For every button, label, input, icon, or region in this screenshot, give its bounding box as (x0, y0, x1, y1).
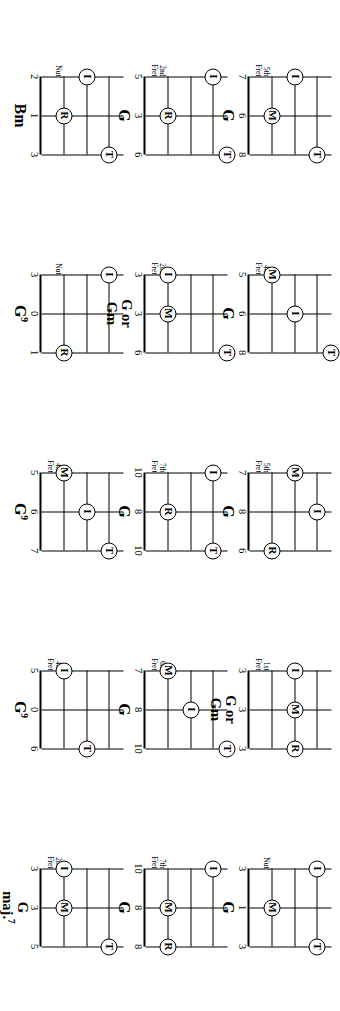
chord-slot: 1stFretIMR333G or Gm (219, 608, 323, 806)
fret-line-0 (316, 670, 317, 748)
fret-line-2 (63, 274, 64, 352)
fret-line-0 (212, 274, 213, 352)
chord-diagram[interactable]: 4thFretMIT568G (219, 242, 319, 392)
finger-marker[interactable]: T (101, 542, 118, 559)
chord-name-text: G (11, 502, 28, 514)
finger-marker[interactable]: R (287, 740, 304, 757)
finger-marker[interactable]: I (160, 266, 177, 283)
chord-diagram[interactable]: 7thFretIRT10810G (115, 440, 215, 590)
chord-diagram[interactable]: 6thFretMIT7810G (115, 638, 215, 788)
finger-marker[interactable]: I (205, 68, 222, 85)
chord-diagram[interactable]: 2ndFretIMT336G or Gm (115, 242, 215, 392)
fret-number: 1 (27, 112, 39, 117)
finger-marker[interactable]: R (56, 107, 73, 124)
finger-marker[interactable]: I (309, 860, 326, 877)
finger-marker[interactable]: T (219, 344, 236, 361)
string-line-3 (145, 946, 227, 947)
fret-number: 0 (27, 310, 39, 315)
chord-diagram[interactable]: NutIR301G9 (11, 242, 111, 392)
fret-number: 3 (27, 271, 39, 276)
string-line-1 (249, 274, 331, 275)
fret-number: 3 (235, 943, 247, 948)
chord-column: 1stFretIMR333G or Gm6thFretMIT7810G4thFr… (11, 608, 323, 806)
chord-diagram[interactable]: 7thFretIMR1088G (115, 836, 215, 986)
fret-number: 10 (131, 467, 143, 478)
chord-name-superscript: 7 (6, 919, 16, 924)
finger-marker[interactable]: T (309, 938, 326, 955)
fret-number: 5 (235, 271, 247, 276)
chord-diagram[interactable]: 5thFretIMT768G (219, 44, 319, 194)
chord-diagram[interactable]: 1stFretIMR333G or Gm (219, 638, 319, 788)
fretboard: 6thFretMIT (145, 670, 213, 748)
chord-diagram[interactable]: NutIRT213Bm (11, 44, 111, 194)
finger-marker[interactable]: M (264, 899, 281, 916)
fret-line-2 (63, 670, 64, 748)
fret-line-2 (63, 472, 64, 550)
chord-diagram[interactable]: 4thFretIT506G9 (11, 638, 111, 788)
finger-marker[interactable]: T (101, 938, 118, 955)
finger-marker[interactable]: T (309, 146, 326, 163)
fretboard: NutIRT (41, 76, 109, 154)
finger-marker[interactable]: R (264, 542, 281, 559)
chord-name-superscript: 9 (18, 317, 28, 322)
chord-diagram[interactable]: 2ndFretIMT335G maj.7 (11, 836, 111, 986)
finger-marker[interactable]: I (287, 305, 304, 322)
fret-number: 6 (235, 547, 247, 552)
finger-marker[interactable]: R (56, 344, 73, 361)
fret-position-line2: Fret (45, 640, 53, 670)
finger-marker[interactable]: T (79, 740, 96, 757)
finger-marker[interactable]: T (205, 542, 222, 559)
finger-marker[interactable]: R (160, 938, 177, 955)
finger-marker[interactable]: R (160, 107, 177, 124)
chord-diagram[interactable]: 4thFretMIT567G9 (11, 440, 111, 590)
string-line-2 (145, 511, 227, 512)
fret-number: 8 (131, 904, 143, 909)
chord-slot: 5thFretIMT768G (219, 14, 323, 212)
chord-diagram[interactable]: 2ndFretIRT536G (115, 44, 215, 194)
finger-marker[interactable]: I (56, 662, 73, 679)
fret-number: 0 (27, 706, 39, 711)
chord-diagram[interactable]: NutIMT313G (219, 836, 319, 986)
finger-marker[interactable]: I (101, 266, 118, 283)
string-line-2 (145, 907, 227, 908)
finger-marker[interactable]: I (205, 860, 222, 877)
fret-position-line2: Fret (149, 640, 157, 670)
finger-marker[interactable]: M (56, 464, 73, 481)
fret-number: 5 (131, 73, 143, 78)
finger-marker[interactable]: I (287, 662, 304, 679)
fret-number: 3 (131, 112, 143, 117)
finger-marker[interactable]: M (287, 701, 304, 718)
finger-marker[interactable]: T (219, 146, 236, 163)
finger-marker[interactable]: T (323, 344, 340, 361)
finger-marker[interactable]: R (160, 503, 177, 520)
fret-number: 1 (235, 904, 247, 909)
finger-marker[interactable]: I (205, 464, 222, 481)
string-line-1 (145, 274, 227, 275)
finger-marker[interactable]: M (264, 107, 281, 124)
finger-marker[interactable]: I (79, 503, 96, 520)
finger-marker[interactable]: I (79, 68, 96, 85)
fret-number: 1 (27, 349, 39, 354)
chord-name: G9 (12, 472, 27, 550)
finger-marker[interactable]: T (101, 146, 118, 163)
fretboard: NutIR (41, 274, 109, 352)
fret-position-line2: Fret (253, 442, 261, 472)
finger-marker[interactable]: M (264, 266, 281, 283)
finger-marker[interactable]: I (56, 860, 73, 877)
finger-marker[interactable]: M (160, 899, 177, 916)
fret-number: 10 (131, 863, 143, 874)
chord-diagram[interactable]: 5thFretMIR786G (219, 440, 319, 590)
fretboard: 2ndFretIMT (41, 868, 109, 946)
finger-marker[interactable]: I (309, 503, 326, 520)
finger-marker[interactable]: M (160, 305, 177, 322)
finger-marker[interactable]: I (287, 68, 304, 85)
finger-marker[interactable]: M (160, 662, 177, 679)
finger-marker[interactable]: M (287, 464, 304, 481)
finger-marker[interactable]: I (183, 701, 200, 718)
finger-marker[interactable]: M (56, 899, 73, 916)
finger-marker[interactable]: T (219, 740, 236, 757)
fret-number: 6 (235, 112, 247, 117)
fret-number: 7 (27, 547, 39, 552)
fret-line-1 (86, 274, 87, 352)
